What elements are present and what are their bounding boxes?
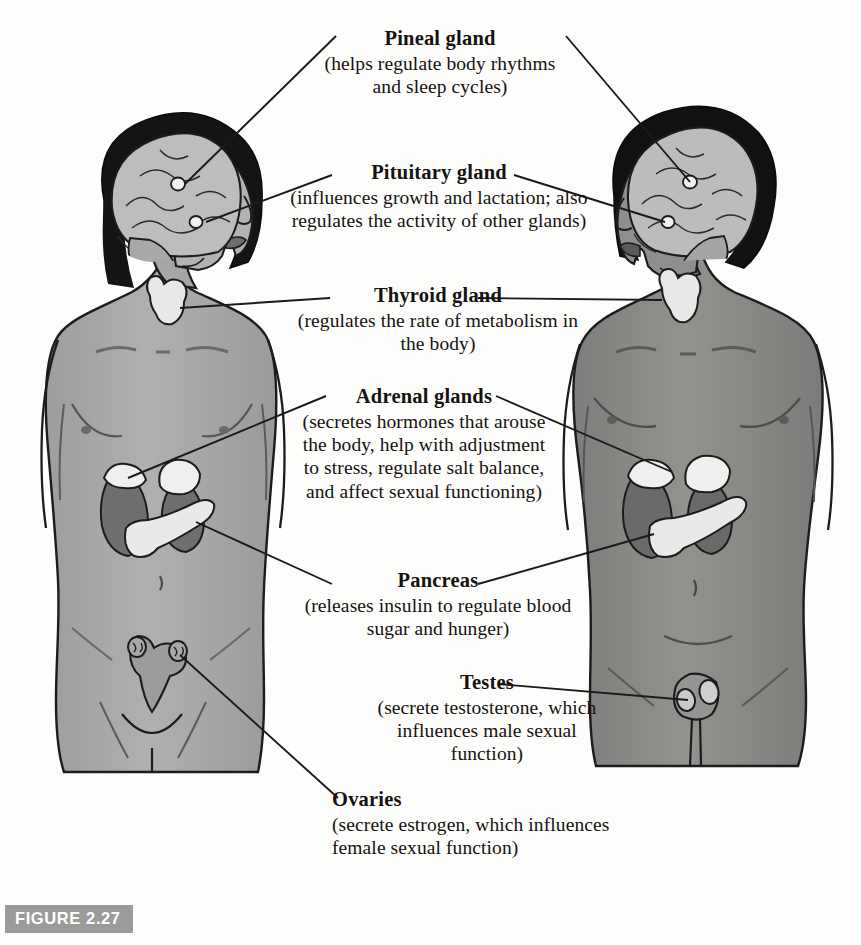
label-adrenal-glands: Adrenal glands (secretes hormones that a… xyxy=(296,384,552,503)
female-nipple-right xyxy=(219,426,229,434)
female-ovary-left xyxy=(128,637,146,657)
label-heading-pineal: Pineal gland xyxy=(316,26,564,51)
label-ovaries: Ovaries (secrete estrogen, which influen… xyxy=(332,787,632,859)
female-figure xyxy=(42,113,285,772)
label-pituitary-gland: Pituitary gland (influences growth and l… xyxy=(286,160,592,232)
male-nipple-left xyxy=(607,416,617,424)
female-nipple-left xyxy=(81,426,91,434)
female-pineal-gland xyxy=(171,178,185,191)
label-pineal-gland: Pineal gland (helps regulate body rhythm… xyxy=(316,26,564,98)
female-pituitary-gland xyxy=(190,216,203,228)
male-brain xyxy=(628,128,758,257)
label-heading-pituitary: Pituitary gland xyxy=(286,160,592,185)
label-body-testes: (secrete testosterone, which influences … xyxy=(360,696,614,766)
female-adrenal-right xyxy=(159,460,200,495)
label-pancreas: Pancreas (releases insulin to regulate b… xyxy=(282,568,594,640)
label-body-pancreas: (releases insulin to regulate blood suga… xyxy=(282,594,594,641)
label-body-thyroid: (regulates the rate of metabolism in the… xyxy=(292,309,584,356)
label-thyroid-gland: Thyroid gland (regulates the rate of met… xyxy=(292,283,584,355)
male-figure xyxy=(564,106,833,766)
label-heading-pancreas: Pancreas xyxy=(282,568,594,593)
male-nipple-right xyxy=(779,416,789,424)
label-body-ovaries: (secrete estrogen, which influences fema… xyxy=(332,813,632,860)
label-body-pineal: (helps regulate body rhythms and sleep c… xyxy=(316,52,564,99)
male-adrenal-right xyxy=(685,456,730,493)
label-heading-ovaries: Ovaries xyxy=(332,787,632,812)
label-testes: Testes (secrete testosterone, which infl… xyxy=(360,670,614,766)
figure-canvas: Pineal gland (helps regulate body rhythm… xyxy=(0,0,861,945)
label-body-pituitary: (influences growth and lactation; also r… xyxy=(286,186,592,233)
label-heading-thyroid: Thyroid gland xyxy=(292,283,584,308)
figure-number-badge: FIGURE 2.27 xyxy=(5,905,133,933)
label-heading-adrenal: Adrenal glands xyxy=(296,384,552,409)
label-heading-testes: Testes xyxy=(360,670,614,695)
label-body-adrenal: (secretes hormones that arouse the body,… xyxy=(296,410,552,504)
